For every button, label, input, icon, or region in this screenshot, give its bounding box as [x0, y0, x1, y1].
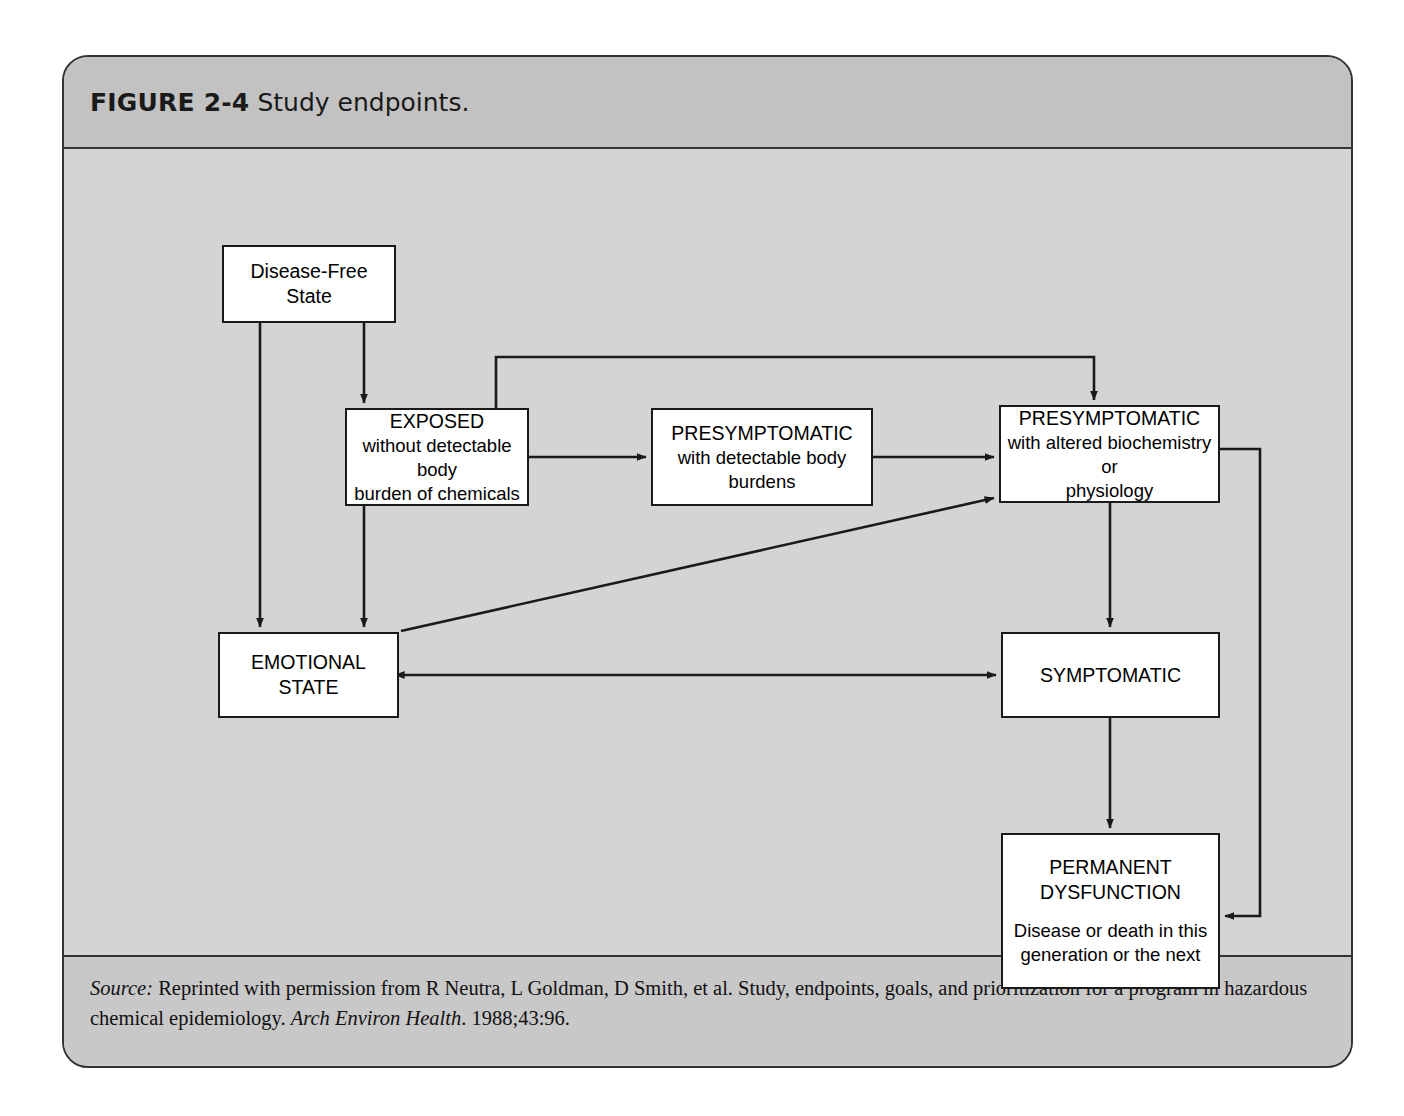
figure-caption: Study endpoints. [257, 88, 469, 117]
node-label: SYMPTOMATIC [1040, 663, 1181, 688]
node-sublabel: without detectable body [347, 434, 527, 482]
node-label-2: DYSFUNCTION [1040, 880, 1181, 905]
node-sublabel: Disease or death in this [1014, 919, 1207, 943]
node-symptomatic[interactable]: SYMPTOMATIC [1001, 632, 1220, 718]
node-sublabel: with altered biochemistry or [1001, 431, 1218, 479]
diagram-canvas: Disease-Free State EXPOSED without detec… [64, 149, 1351, 957]
node-label: PERMANENT [1049, 855, 1171, 880]
edge-emotional-to-presymptomatic-altered [401, 498, 994, 631]
node-label-2: State [286, 284, 332, 309]
figure-title: FIGURE 2-4Study endpoints. [90, 88, 469, 117]
node-label: PRESYMPTOMATIC [1019, 406, 1200, 431]
node-label: EXPOSED [390, 409, 484, 434]
figure-header: FIGURE 2-4Study endpoints. [64, 57, 1351, 149]
edge-exposed-to-presymptomatic-altered [496, 357, 1094, 408]
source-text-part2: . 1988;43:96. [461, 1007, 570, 1029]
node-emotional-state[interactable]: EMOTIONAL STATE [218, 632, 399, 718]
node-label-2: STATE [279, 675, 339, 700]
node-label: PRESYMPTOMATIC [671, 421, 852, 446]
node-sublabel-2: physiology [1066, 479, 1153, 503]
node-label: EMOTIONAL [251, 650, 366, 675]
node-presymptomatic-detectable[interactable]: PRESYMPTOMATIC with detectable body burd… [651, 408, 873, 506]
node-exposed[interactable]: EXPOSED without detectable body burden o… [345, 408, 529, 506]
edge-presymptomatic-altered-to-permanent-dysfunction [1220, 449, 1260, 916]
node-permanent-dysfunction[interactable]: PERMANENT DYSFUNCTION Disease or death i… [1001, 833, 1220, 989]
node-sublabel-2: generation or the next [1021, 943, 1201, 967]
node-label: Disease-Free [250, 259, 367, 284]
node-disease-free-state[interactable]: Disease-Free State [222, 245, 396, 323]
node-sublabel-2: burden of chemicals [354, 482, 520, 506]
source-label: Source: [90, 977, 153, 999]
node-presymptomatic-altered[interactable]: PRESYMPTOMATIC with altered biochemistry… [999, 405, 1220, 503]
node-sublabel: with detectable body burdens [653, 446, 871, 494]
figure-number: FIGURE 2-4 [90, 88, 249, 117]
figure-frame: FIGURE 2-4Study endpoints. [62, 55, 1353, 1068]
source-journal: Arch Environ Health [291, 1007, 461, 1029]
